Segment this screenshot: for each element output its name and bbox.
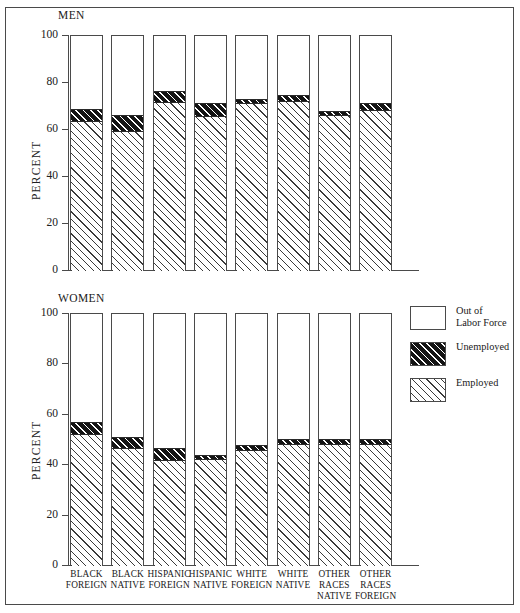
segment-out-of-labor-force <box>195 314 226 455</box>
segment-out-of-labor-force <box>236 314 267 445</box>
y-tick-women-40 <box>62 464 68 465</box>
segment-unemployed <box>71 109 102 122</box>
legend: Out of Labor ForceUnemployedEmployed <box>410 306 514 414</box>
segment-employed <box>154 103 185 271</box>
y-tick-label-women-20: 20 <box>24 508 58 520</box>
panel-title-men: MEN <box>58 9 85 21</box>
legend-item-unemployed[interactable]: Unemployed <box>410 342 514 378</box>
bar-men-2[interactable] <box>153 35 186 270</box>
segment-out-of-labor-force <box>360 36 391 103</box>
x-label-line: OTHER <box>351 569 400 580</box>
segment-out-of-labor-force <box>236 36 267 99</box>
y-axis-line-women <box>68 313 69 566</box>
y-tick-label-women-60: 60 <box>24 407 58 419</box>
bar-men-1[interactable] <box>111 35 144 270</box>
segment-unemployed <box>154 91 185 103</box>
y-tick-label-men-80: 80 <box>24 75 58 87</box>
segment-employed <box>154 461 185 566</box>
bar-women-3[interactable] <box>194 313 227 565</box>
segment-employed <box>236 451 267 566</box>
segment-out-of-labor-force <box>71 314 102 422</box>
y-tick-men-0 <box>62 270 68 271</box>
legend-swatch-out <box>410 306 446 330</box>
y-tick-women-100 <box>62 313 68 314</box>
y-tick-label-men-0: 0 <box>24 263 58 275</box>
y-tick-label-men-60: 60 <box>24 122 58 134</box>
segment-out-of-labor-force <box>112 314 143 437</box>
y-tick-label-men-20: 20 <box>24 216 58 228</box>
bar-men-4[interactable] <box>235 35 268 270</box>
legend-item-out[interactable]: Out of Labor Force <box>410 306 514 342</box>
legend-item-employed[interactable]: Employed <box>410 378 514 414</box>
segment-employed <box>112 132 143 271</box>
bar-men-3[interactable] <box>194 35 227 270</box>
segment-employed <box>278 102 309 271</box>
segment-out-of-labor-force <box>71 36 102 109</box>
segment-out-of-labor-force <box>319 36 350 111</box>
segment-unemployed <box>71 422 102 435</box>
legend-swatch-unemployed <box>410 342 446 366</box>
y-tick-label-women-40: 40 <box>24 457 58 469</box>
segment-unemployed <box>154 448 185 462</box>
bar-women-5[interactable] <box>277 313 310 565</box>
segment-unemployed <box>112 115 143 133</box>
bar-women-1[interactable] <box>111 313 144 565</box>
bar-women-7[interactable] <box>359 313 392 565</box>
y-axis-line-men <box>68 35 69 271</box>
y-tick-label-women-100: 100 <box>24 306 58 318</box>
bar-women-0[interactable] <box>70 313 103 565</box>
y-tick-men-20 <box>62 223 68 224</box>
segment-employed <box>195 117 226 271</box>
segment-employed <box>319 116 350 271</box>
segment-employed <box>278 445 309 566</box>
y-tick-women-60 <box>62 414 68 415</box>
y-tick-label-men-100: 100 <box>24 28 58 40</box>
segment-out-of-labor-force <box>154 36 185 91</box>
segment-out-of-labor-force <box>154 314 185 448</box>
x-label-7: OTHERRACESFOREIGN <box>351 569 400 603</box>
segment-employed <box>71 122 102 271</box>
y-tick-label-women-80: 80 <box>24 356 58 368</box>
bar-men-5[interactable] <box>277 35 310 270</box>
legend-swatch-employed <box>410 378 446 402</box>
segment-unemployed <box>195 103 226 117</box>
segment-unemployed <box>278 95 309 102</box>
segment-employed <box>71 435 102 566</box>
legend-label-employed: Employed <box>456 377 498 389</box>
segment-out-of-labor-force <box>195 36 226 103</box>
segment-employed <box>195 460 226 566</box>
x-label-line: RACES <box>351 580 400 591</box>
segment-unemployed <box>112 437 143 448</box>
legend-label-out: Out of Labor Force <box>456 305 507 330</box>
bar-men-7[interactable] <box>359 35 392 270</box>
y-axis-label-women: PERCENT <box>30 420 42 480</box>
y-tick-men-40 <box>62 176 68 177</box>
panel-title-women: WOMEN <box>58 292 105 304</box>
y-tick-women-20 <box>62 515 68 516</box>
y-tick-label-men-40: 40 <box>24 169 58 181</box>
bar-women-2[interactable] <box>153 313 186 565</box>
segment-employed <box>360 111 391 271</box>
x-label-line: FOREIGN <box>351 591 400 602</box>
bar-men-0[interactable] <box>70 35 103 270</box>
legend-label-unemployed: Unemployed <box>456 341 509 353</box>
y-tick-men-100 <box>62 35 68 36</box>
bar-women-6[interactable] <box>318 313 351 565</box>
segment-unemployed <box>360 103 391 111</box>
y-tick-women-0 <box>62 565 68 566</box>
segment-out-of-labor-force <box>112 36 143 115</box>
y-tick-men-60 <box>62 129 68 130</box>
segment-employed <box>319 445 350 566</box>
segment-employed <box>112 449 143 566</box>
segment-employed <box>236 104 267 271</box>
segment-employed <box>360 445 391 566</box>
segment-out-of-labor-force <box>360 314 391 439</box>
segment-out-of-labor-force <box>278 36 309 95</box>
y-tick-men-80 <box>62 82 68 83</box>
bar-women-4[interactable] <box>235 313 268 565</box>
y-tick-label-women-0: 0 <box>24 558 58 570</box>
bar-men-6[interactable] <box>318 35 351 270</box>
segment-out-of-labor-force <box>278 314 309 439</box>
y-tick-women-80 <box>62 363 68 364</box>
segment-out-of-labor-force <box>319 314 350 439</box>
